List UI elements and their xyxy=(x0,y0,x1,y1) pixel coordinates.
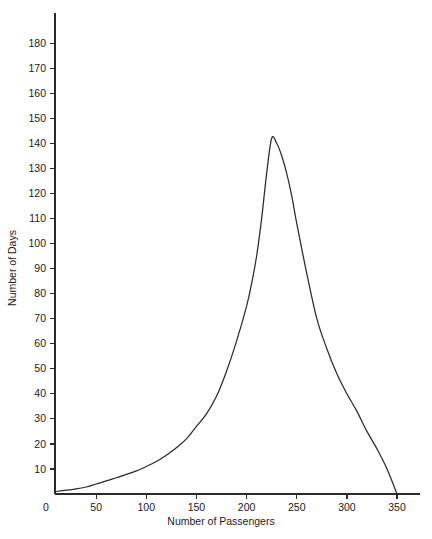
x-tick-label: 100 xyxy=(138,501,156,513)
y-tick-label: 50 xyxy=(34,362,46,374)
x-axis-title: Number of Passengers xyxy=(167,515,274,527)
y-tick-label: 120 xyxy=(28,187,46,199)
y-axis-title: Number of Days xyxy=(6,230,18,306)
chart-container: 1020304050607080901001101201301401501601… xyxy=(0,0,432,539)
y-tick-label: 100 xyxy=(28,237,46,249)
x-tick-label: 150 xyxy=(188,501,206,513)
y-tick-label: 80 xyxy=(34,287,46,299)
x-tick-label: 0 xyxy=(43,501,49,513)
y-tick-label: 130 xyxy=(28,162,46,174)
y-axis-ticks xyxy=(50,43,55,469)
y-tick-label: 140 xyxy=(28,137,46,149)
y-tick-label: 90 xyxy=(34,262,46,274)
x-tick-label: 250 xyxy=(288,501,306,513)
chart-plot-area: 1020304050607080901001101201301401501601… xyxy=(0,0,432,539)
y-tick-label: 40 xyxy=(34,387,46,399)
y-tick-label: 150 xyxy=(28,112,46,124)
y-tick-label: 30 xyxy=(34,412,46,424)
x-tick-label: 50 xyxy=(90,501,102,513)
y-tick-label: 160 xyxy=(28,87,46,99)
y-tick-label: 20 xyxy=(34,438,46,450)
y-tick-label: 180 xyxy=(28,37,46,49)
y-axis-tick-labels: 1020304050607080901001101201301401501601… xyxy=(28,37,46,475)
x-tick-label: 300 xyxy=(338,501,356,513)
x-axis-tick-labels: 050100150200250300350 xyxy=(43,501,406,513)
y-tick-label: 110 xyxy=(29,212,46,224)
y-tick-label: 10 xyxy=(34,463,46,475)
x-tick-label: 200 xyxy=(238,501,256,513)
y-tick-label: 60 xyxy=(34,337,46,349)
x-tick-label: 350 xyxy=(388,501,406,513)
y-tick-label: 70 xyxy=(34,312,46,324)
y-tick-label: 170 xyxy=(28,62,46,74)
distribution-curve xyxy=(56,137,397,494)
x-axis-ticks xyxy=(96,494,397,499)
